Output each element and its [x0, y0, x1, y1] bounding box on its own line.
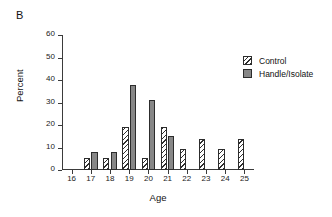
bar — [218, 149, 224, 170]
x-tick-label: 18 — [106, 174, 115, 183]
bar — [180, 149, 186, 170]
y-tick-label: 0 — [51, 164, 55, 173]
y-tick-mark — [58, 58, 62, 59]
bar — [161, 127, 167, 170]
hatched-swatch — [243, 56, 252, 65]
bar — [149, 100, 155, 170]
y-tick-label: 20 — [46, 119, 55, 128]
x-tick-label: 17 — [86, 174, 95, 183]
x-tick-label: 24 — [221, 174, 230, 183]
x-tick-label: 16 — [67, 174, 76, 183]
plot-area: 0102030405060 16171819202122232425 — [62, 35, 254, 170]
legend-label: Handle/Isolate — [259, 69, 313, 79]
bar — [238, 139, 244, 171]
y-tick-mark — [58, 35, 62, 36]
x-tick-label: 21 — [163, 174, 172, 183]
y-tick-mark — [58, 148, 62, 149]
chart-legend: ControlHandle/Isolate — [243, 55, 313, 81]
bar — [142, 158, 148, 170]
x-tick-label: 19 — [125, 174, 134, 183]
y-tick-mark — [58, 103, 62, 104]
bar — [168, 136, 174, 170]
solid-gray-swatch — [243, 69, 252, 78]
legend-label: Control — [259, 56, 286, 66]
x-tick-label: 23 — [202, 174, 211, 183]
y-tick-label: 60 — [46, 29, 55, 38]
y-axis-title: Percent — [14, 69, 25, 102]
y-tick-label: 50 — [46, 52, 55, 61]
y-tick-label: 40 — [46, 74, 55, 83]
legend-item[interactable]: Handle/Isolate — [243, 68, 313, 79]
x-tick-label: 22 — [182, 174, 191, 183]
x-axis-title: Age — [62, 192, 254, 203]
bar — [130, 85, 136, 171]
figure-panel-b: B 0102030405060 16171819202122232425 Age… — [0, 0, 332, 217]
y-tick-label: 10 — [46, 142, 55, 151]
bar — [111, 152, 117, 170]
bar — [84, 158, 90, 170]
y-tick-mark — [58, 170, 62, 171]
legend-item[interactable]: Control — [243, 55, 313, 66]
x-tick-label: 20 — [144, 174, 153, 183]
bar — [91, 152, 97, 170]
y-axis-line — [62, 35, 63, 170]
y-tick-mark — [58, 125, 62, 126]
bar — [103, 158, 109, 170]
y-tick-mark — [58, 80, 62, 81]
x-tick-label: 25 — [240, 174, 249, 183]
bar — [199, 139, 205, 171]
bar — [122, 127, 128, 170]
panel-label: B — [16, 9, 24, 21]
y-tick-label: 30 — [46, 97, 55, 106]
